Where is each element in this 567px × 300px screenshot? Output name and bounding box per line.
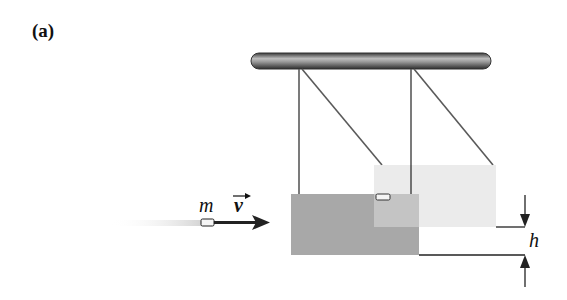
velocity-label: v [234,194,244,216]
height-label: h [529,229,539,251]
velocity-arrow [214,215,270,230]
bullet-embedded [376,194,390,200]
bullet [201,219,214,226]
support-rod [251,53,491,69]
string-left-diagonal [302,69,382,165]
bullet-trail [110,220,202,226]
ballistic-pendulum-diagram: m v h [0,0,567,300]
mass-label: m [199,194,213,216]
string-right-diagonal [414,69,493,165]
